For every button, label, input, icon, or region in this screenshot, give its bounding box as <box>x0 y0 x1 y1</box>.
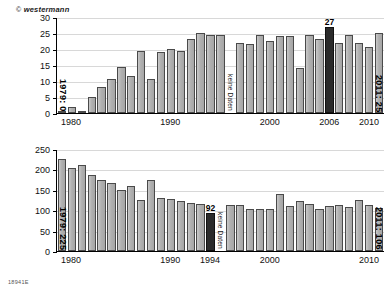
y-tick-label: 250 <box>35 146 50 155</box>
bar <box>167 49 175 113</box>
y-tick-label: 200 <box>35 166 50 175</box>
bar <box>355 43 363 113</box>
bar <box>177 201 185 251</box>
bar <box>127 186 135 251</box>
bar <box>187 203 195 251</box>
bar <box>236 43 244 113</box>
bar <box>246 44 254 113</box>
y-tick-label: 0 <box>45 248 50 257</box>
bar-cell <box>156 18 166 113</box>
bar <box>226 205 234 251</box>
bar <box>246 209 254 251</box>
start-value-note: 1979: 225 <box>58 207 68 250</box>
bar-cell <box>285 150 295 251</box>
bar <box>88 97 96 113</box>
bar <box>107 183 115 251</box>
bar-cell <box>315 150 325 251</box>
bar <box>107 79 115 113</box>
bar <box>187 39 195 113</box>
bar-cell <box>186 18 196 113</box>
bar-cell <box>295 18 305 113</box>
bar-cell <box>126 150 136 251</box>
bar <box>325 206 333 251</box>
bar-cell <box>216 18 226 113</box>
bar-cell <box>206 18 216 113</box>
bar-cell <box>196 18 206 113</box>
no-data-label: keine Daten <box>217 212 224 249</box>
x-tick-label: 1980 <box>61 117 81 127</box>
bar-value-label: 27 <box>325 17 334 27</box>
x-tick-label: 2006 <box>319 117 339 127</box>
chart-panel-top: 051015202530keine Daten271979: 02011: 25… <box>0 18 390 136</box>
y-axis-labels: 050100150200250 <box>0 150 56 274</box>
bar-value-label: 92 <box>206 203 215 213</box>
bar <box>196 33 204 113</box>
bar <box>68 107 76 113</box>
bar <box>167 199 175 251</box>
bar <box>355 200 363 251</box>
x-tick-label: 2000 <box>260 117 280 127</box>
bar-cell <box>275 18 285 113</box>
bar <box>365 205 373 251</box>
bar-cell <box>235 18 245 113</box>
bar-cell <box>354 18 364 113</box>
end-value-note: 2011: 106 <box>374 207 384 250</box>
bar-cell <box>305 18 315 113</box>
x-axis: 19801990199420002010 <box>56 252 384 274</box>
bar <box>97 180 105 251</box>
start-value-note: 1979: 0 <box>58 79 68 112</box>
bar-cell <box>196 150 206 251</box>
bar <box>335 205 343 251</box>
bar-cell <box>146 18 156 113</box>
bar-cell <box>146 150 156 251</box>
bar-cell <box>295 150 305 251</box>
bar-cell <box>285 18 295 113</box>
bar <box>335 43 343 113</box>
bar <box>157 198 165 251</box>
bar-missing: keine Daten <box>226 18 234 113</box>
bar <box>315 209 323 251</box>
bar <box>345 207 353 251</box>
y-tick-label: 30 <box>40 14 50 23</box>
bar <box>177 51 185 113</box>
bar-cell <box>334 18 344 113</box>
x-axis: 19801990200020062010 <box>56 114 384 136</box>
bar-cell <box>67 18 77 113</box>
x-tick-label: 2000 <box>260 255 280 265</box>
bar-cell <box>77 18 87 113</box>
bar-missing: keine Daten <box>216 150 224 251</box>
bar-cell <box>255 150 265 251</box>
bar-cell <box>97 150 107 251</box>
chart-panel-bottom: 05010015020025092keine Daten1979: 225201… <box>0 150 390 274</box>
bar-cell <box>245 18 255 113</box>
y-tick-label: 15 <box>40 62 50 71</box>
y-tick-label: 0 <box>45 110 50 119</box>
bar-cell <box>186 150 196 251</box>
bar <box>147 79 155 113</box>
y-tick-label: 100 <box>35 207 50 216</box>
bar-series: 92keine Daten <box>57 150 384 251</box>
bar-cell <box>245 150 255 251</box>
bar-cell <box>324 150 334 251</box>
x-tick-label: 2010 <box>359 255 379 265</box>
bar-highlighted: 92 <box>206 213 214 251</box>
bar <box>196 204 204 251</box>
y-tick-label: 20 <box>40 46 50 55</box>
bar <box>78 165 86 251</box>
x-tick-label: 1990 <box>160 117 180 127</box>
bar-cell <box>116 150 126 251</box>
bar-cell <box>126 18 136 113</box>
bar-cell: 92 <box>206 150 216 251</box>
bar <box>127 76 135 113</box>
bar <box>256 209 264 251</box>
bar <box>236 205 244 251</box>
bar-series: keine Daten27 <box>57 18 384 113</box>
bar <box>78 111 86 113</box>
bar <box>305 204 313 251</box>
bar <box>276 194 284 251</box>
bar <box>157 52 165 113</box>
bar-cell <box>364 150 374 251</box>
bar-cell <box>107 150 117 251</box>
bar <box>345 35 353 113</box>
bar-cell: 27 <box>324 18 334 113</box>
